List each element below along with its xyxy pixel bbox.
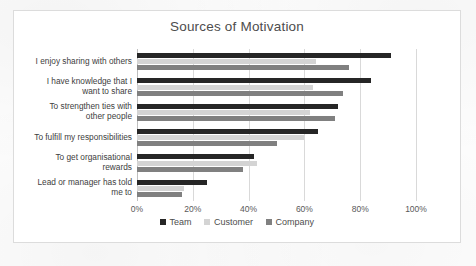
legend-swatch-icon bbox=[160, 219, 166, 225]
x-axis-tick-label: 60% bbox=[296, 204, 313, 214]
bar-customer bbox=[137, 186, 184, 191]
category-label: I enjoy sharing with others bbox=[14, 57, 132, 67]
bar-company bbox=[137, 167, 243, 172]
chart-legend: TeamCustomerCompany bbox=[14, 217, 460, 227]
category-label: To get organisational rewards bbox=[14, 153, 132, 172]
gridline-20 bbox=[193, 49, 194, 201]
legend-label: Team bbox=[169, 217, 191, 227]
x-axis-tick-label: 20% bbox=[184, 204, 201, 214]
legend-swatch-icon bbox=[266, 219, 272, 225]
legend-item-company[interactable]: Company bbox=[266, 217, 314, 227]
bar-team bbox=[137, 154, 254, 159]
bar-team bbox=[137, 104, 338, 109]
gridline-0 bbox=[137, 49, 138, 201]
bar-company bbox=[137, 116, 335, 121]
legend-swatch-icon bbox=[204, 219, 210, 225]
gridline-80 bbox=[360, 49, 361, 201]
x-axis-tick-label: 100% bbox=[405, 204, 427, 214]
legend-item-customer[interactable]: Customer bbox=[204, 217, 253, 227]
bar-customer bbox=[137, 135, 304, 140]
category-label: To fulfill my responsibilities bbox=[14, 133, 132, 143]
bar-customer bbox=[137, 85, 313, 90]
bar-team bbox=[137, 129, 318, 134]
category-label: I have knowledge that I want to share bbox=[14, 77, 132, 96]
bar-company bbox=[137, 65, 349, 70]
category-label: To strengthen ties with other people bbox=[14, 103, 132, 122]
bar-team bbox=[137, 78, 371, 83]
bar-company bbox=[137, 91, 343, 96]
bar-team bbox=[137, 53, 391, 58]
plot-area: 0%20%40%60%80%100%I enjoy sharing with o… bbox=[137, 49, 416, 201]
gridline-40 bbox=[249, 49, 250, 201]
legend-item-team[interactable]: Team bbox=[160, 217, 192, 227]
bar-company bbox=[137, 141, 277, 146]
x-axis-tick-label: 0% bbox=[131, 204, 143, 214]
legend-label: Customer bbox=[214, 217, 253, 227]
legend-label: Company bbox=[276, 217, 315, 227]
bar-customer bbox=[137, 59, 316, 64]
x-axis-tick-label: 80% bbox=[352, 204, 369, 214]
bar-team bbox=[137, 180, 207, 185]
category-label: Lead or manager has told me to bbox=[14, 179, 132, 198]
chart-container: Sources of Motivation 0%20%40%60%80%100%… bbox=[13, 10, 461, 243]
gridline-60 bbox=[304, 49, 305, 201]
bar-company bbox=[137, 192, 182, 197]
x-axis-tick-label: 40% bbox=[240, 204, 257, 214]
chart-title: Sources of Motivation bbox=[14, 19, 460, 34]
gridline-100 bbox=[416, 49, 417, 201]
bar-customer bbox=[137, 110, 310, 115]
bar-customer bbox=[137, 161, 257, 166]
